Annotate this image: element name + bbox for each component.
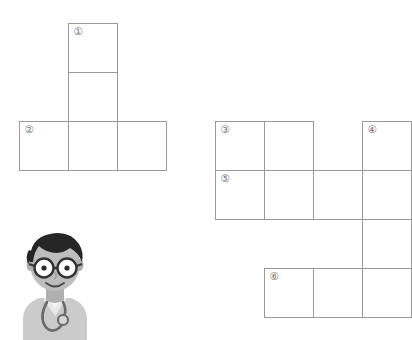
crossword-cell-numbered[interactable]: ② xyxy=(19,121,69,171)
stethoscope-chestpiece xyxy=(58,315,68,325)
crossword-cell[interactable] xyxy=(313,170,363,220)
cell-number-label: ② xyxy=(23,123,36,136)
crossword-cell[interactable] xyxy=(362,268,412,318)
cell-number-label: ⑤ xyxy=(219,172,232,185)
cell-number-label: ④ xyxy=(366,123,379,136)
crossword-cell-numbered[interactable]: ① xyxy=(68,23,118,73)
crossword-cell[interactable] xyxy=(362,170,412,220)
crossword-cell[interactable] xyxy=(68,121,118,171)
eye-right xyxy=(64,265,69,270)
crossword-cell-numbered[interactable]: ③ xyxy=(215,121,265,171)
crossword-cell[interactable] xyxy=(264,121,314,171)
crossword-cell-numbered[interactable]: ⑤ xyxy=(215,170,265,220)
doctor-illustration xyxy=(17,228,93,340)
eye-left xyxy=(41,265,46,270)
cell-number-label: ⑥ xyxy=(268,270,281,283)
cell-number-label: ③ xyxy=(219,123,232,136)
crossword-cell-numbered[interactable]: ⑥ xyxy=(264,268,314,318)
crossword-cell[interactable] xyxy=(68,72,118,122)
cell-number-label: ① xyxy=(72,25,85,38)
crossword-cell[interactable] xyxy=(117,121,167,171)
crossword-cell-numbered[interactable]: ④ xyxy=(362,121,412,171)
crossword-cell[interactable] xyxy=(313,268,363,318)
crossword-cell[interactable] xyxy=(264,170,314,220)
crossword-cell[interactable] xyxy=(362,219,412,269)
